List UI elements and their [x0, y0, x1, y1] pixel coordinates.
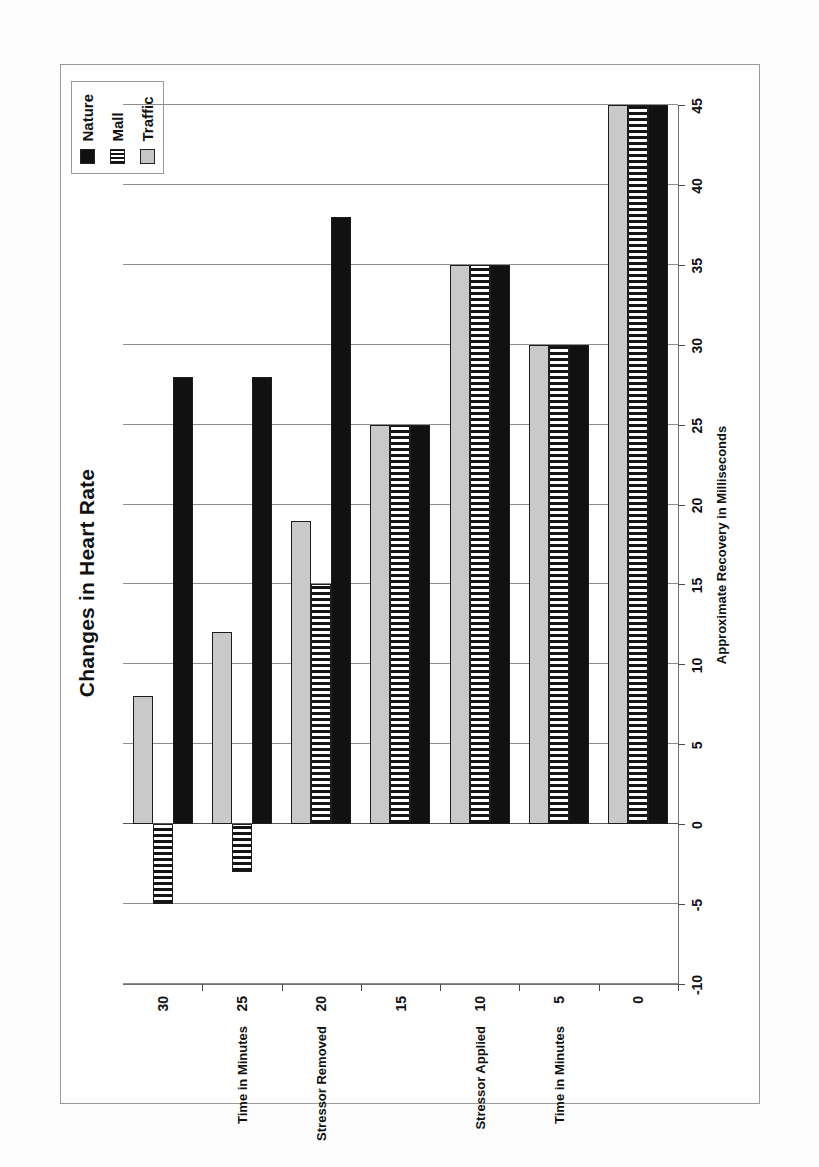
category-label-25: 25: [233, 996, 249, 1012]
bar-mall-25: [231, 824, 251, 872]
bar-nature-10: [489, 264, 509, 823]
category-group-30: [123, 105, 202, 984]
value-tick-label-5: 5: [689, 741, 705, 749]
bar-traffic-10: [449, 264, 469, 823]
bar-traffic-5: [529, 344, 549, 823]
value-tick-25: [678, 424, 685, 425]
value-tick-0: [678, 824, 685, 825]
category-tick-30: [202, 984, 203, 991]
rotated-chart-wrapper: Changes in Heart Rate Nature Mall Traffi…: [60, 64, 760, 1104]
bar-nature-20: [331, 216, 351, 823]
category-tick-5: [598, 984, 599, 991]
bar-mall-20: [311, 584, 331, 824]
value-tick-15: [678, 584, 685, 585]
value-tick-5: [678, 744, 685, 745]
category-label-10: 10: [471, 996, 487, 1012]
category-label-15: 15: [392, 996, 408, 1012]
bar-traffic-20: [291, 520, 311, 824]
value-tick--5: [678, 904, 685, 905]
category-note-5: Time in Minutes: [551, 1026, 566, 1124]
value-tick-20: [678, 504, 685, 505]
bar-nature-30: [172, 376, 192, 823]
value-tick-30: [678, 344, 685, 345]
bar-nature-0: [648, 105, 668, 824]
value-tick-label-20: 20: [689, 497, 705, 513]
bar-traffic-30: [132, 696, 152, 824]
value-tick-label--5: -5: [689, 898, 705, 910]
category-label-0: 0: [630, 996, 646, 1004]
bar-traffic-15: [370, 424, 390, 824]
category-tick-25: [281, 984, 282, 991]
chart-frame: Changes in Heart Rate Nature Mall Traffi…: [60, 64, 760, 1104]
category-note-10: Stressor Applied: [472, 1026, 487, 1130]
category-label-30: 30: [154, 996, 170, 1012]
bar-nature-5: [569, 344, 589, 823]
category-group-15: [360, 105, 439, 984]
category-label-20: 20: [313, 996, 329, 1012]
category-label-5: 5: [551, 996, 567, 1004]
bar-mall-10: [469, 264, 489, 823]
bar-nature-15: [410, 424, 430, 824]
value-tick-label-10: 10: [689, 657, 705, 673]
plot-inner: 05Time in Minutes10Stressor Applied1520S…: [123, 105, 678, 984]
category-group-10: [440, 105, 519, 984]
value-tick--10: [678, 984, 685, 985]
value-tick-35: [678, 264, 685, 265]
category-note-20: Stressor Removed: [313, 1026, 328, 1141]
bar-traffic-0: [608, 105, 628, 824]
bar-mall-5: [549, 344, 569, 823]
category-group-5: [519, 105, 598, 984]
chart-title: Changes in Heart Rate: [75, 63, 99, 1103]
value-tick-label-0: 0: [689, 821, 705, 829]
legend-item-nature: Nature: [79, 94, 96, 164]
value-tick-40: [678, 184, 685, 185]
bar-nature-25: [251, 376, 271, 823]
value-tick-label-45: 45: [689, 98, 705, 114]
bar-mall-30: [152, 824, 172, 904]
value-tick-label-15: 15: [689, 577, 705, 593]
bar-mall-0: [628, 105, 648, 824]
value-axis-title: Approximate Recovery in Milliseconds: [714, 105, 729, 985]
category-note-25: Time in Minutes: [234, 1026, 249, 1124]
bar-traffic-25: [211, 632, 231, 824]
scanned-page: Changes in Heart Rate Nature Mall Traffi…: [0, 0, 819, 1167]
plot-area: 05Time in Minutes10Stressor Applied1520S…: [123, 105, 679, 985]
value-tick-10: [678, 664, 685, 665]
category-tick-20: [360, 984, 361, 991]
value-tick-label-40: 40: [689, 178, 705, 194]
value-tick-label-35: 35: [689, 258, 705, 274]
value-tick-label-30: 30: [689, 337, 705, 353]
category-group-25: [202, 105, 281, 984]
category-tick-10: [519, 984, 520, 991]
category-tick-15: [440, 984, 441, 991]
legend-swatch-nature-icon: [80, 148, 95, 163]
bar-mall-15: [390, 424, 410, 824]
value-tick-label--10: -10: [689, 974, 705, 994]
value-tick-45: [678, 105, 685, 106]
category-group-0: [598, 105, 677, 984]
legend-label-nature: Nature: [79, 94, 96, 142]
value-tick-label-25: 25: [689, 417, 705, 433]
category-group-20: [281, 105, 360, 984]
